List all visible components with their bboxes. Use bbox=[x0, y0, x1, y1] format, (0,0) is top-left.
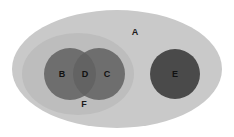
region-label-b: B bbox=[59, 70, 66, 79]
venn-diagram: A F B C D E bbox=[0, 0, 234, 137]
region-label-a: A bbox=[132, 28, 139, 37]
region-label-c: C bbox=[104, 70, 111, 79]
venn-diagram-canvas bbox=[0, 0, 234, 137]
region-label-f: F bbox=[81, 100, 87, 109]
region-label-d: D bbox=[82, 70, 89, 79]
region-label-e: E bbox=[172, 70, 178, 79]
